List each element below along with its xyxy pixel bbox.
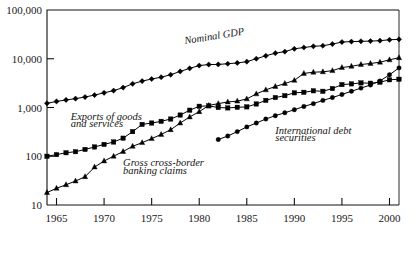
data-point-marker <box>54 152 58 156</box>
x-tick-label: 1975 <box>141 212 164 224</box>
data-point-marker <box>111 140 115 144</box>
data-point-marker <box>321 98 325 102</box>
data-point-marker <box>330 86 334 90</box>
data-point-marker <box>159 119 163 123</box>
x-tick-label: 1985 <box>236 212 259 224</box>
data-point-marker <box>359 86 363 90</box>
data-point-marker <box>292 91 296 95</box>
y-tick-label: 100,000 <box>6 4 42 16</box>
data-point-marker <box>178 113 182 117</box>
data-point-marker <box>387 73 391 77</box>
data-point-marker <box>292 108 296 112</box>
data-point-marker <box>130 129 134 133</box>
data-point-marker <box>368 83 372 87</box>
data-point-marker <box>311 89 315 93</box>
data-point-marker <box>264 117 268 121</box>
data-point-marker <box>245 105 249 109</box>
data-point-marker <box>254 121 258 125</box>
log-line-chart: 100,00010,0001,00010010 1965197019751980… <box>0 0 413 253</box>
data-point-marker <box>397 66 401 70</box>
data-point-marker <box>283 111 287 115</box>
data-point-marker <box>245 125 249 129</box>
x-tick-label: 1965 <box>46 212 69 224</box>
data-point-marker <box>73 149 77 153</box>
data-point-marker <box>187 108 191 112</box>
y-tick-label: 10 <box>31 199 43 211</box>
data-point-marker <box>235 129 239 133</box>
data-point-marker <box>359 81 363 85</box>
data-point-marker <box>340 92 344 96</box>
data-point-marker <box>378 79 382 83</box>
data-point-marker <box>302 90 306 94</box>
x-tick-label: 1980 <box>188 212 211 224</box>
data-point-marker <box>235 105 239 109</box>
data-point-marker <box>83 147 87 151</box>
data-point-marker <box>216 105 220 109</box>
data-point-marker <box>273 113 277 117</box>
data-point-marker <box>283 93 287 97</box>
data-point-marker <box>226 106 230 110</box>
exports-label-line2: and services <box>71 118 123 129</box>
data-point-marker <box>349 82 353 86</box>
data-point-marker <box>92 145 96 149</box>
data-point-marker <box>302 104 306 108</box>
data-point-marker <box>102 142 106 146</box>
y-tick-label: 1,000 <box>17 102 42 114</box>
x-tick-label: 1995 <box>331 212 354 224</box>
data-point-marker <box>64 151 68 155</box>
banking-claims-label-line2: banking claims <box>123 165 187 176</box>
data-point-marker <box>387 78 391 82</box>
chart-container: 100,00010,0001,00010010 1965197019751980… <box>0 0 413 253</box>
debt-securities-label-line2: securities <box>275 132 315 143</box>
data-point-marker <box>140 122 144 126</box>
data-point-marker <box>254 102 258 106</box>
data-point-marker <box>264 98 268 102</box>
y-tick-label: 100 <box>26 150 43 162</box>
data-point-marker <box>397 77 401 81</box>
data-point-marker <box>340 82 344 86</box>
x-tick-label: 2000 <box>378 212 401 224</box>
data-point-marker <box>216 137 220 141</box>
data-point-marker <box>168 117 172 121</box>
data-point-marker <box>273 95 277 99</box>
x-tick-label: 1990 <box>283 212 306 224</box>
data-point-marker <box>311 101 315 105</box>
data-point-marker <box>121 136 125 140</box>
data-point-marker <box>321 89 325 93</box>
data-point-marker <box>226 134 230 138</box>
data-point-marker <box>197 104 201 108</box>
data-point-marker <box>330 95 334 99</box>
y-tick-label: 10,000 <box>12 53 43 65</box>
data-point-marker <box>149 121 153 125</box>
x-tick-label: 1970 <box>93 212 116 224</box>
data-point-marker <box>45 154 49 158</box>
data-point-marker <box>349 89 353 93</box>
